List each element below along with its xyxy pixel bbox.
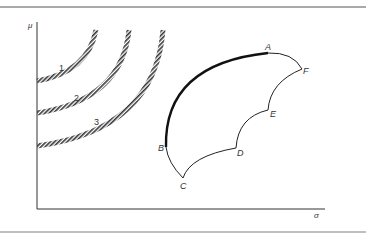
curve-label-1: 1 (59, 63, 64, 73)
point-label-A: A (264, 42, 271, 52)
boundary-AF (268, 53, 302, 69)
curve-label-3: 3 (94, 117, 99, 127)
boundary-ED (236, 110, 268, 148)
point-label-C: C (180, 181, 187, 191)
curve-label-2: 2 (74, 93, 79, 103)
point-label-D: D (237, 148, 244, 158)
y-axis-label: μ (27, 21, 33, 30)
indifference-curve-2 (37, 30, 129, 113)
boundary-CB (166, 147, 183, 178)
boundary-DC (183, 148, 236, 178)
diagram-figure: μ σ 1 2 3 A B C D E F (0, 0, 366, 234)
indifference-curve-1 (37, 30, 96, 81)
point-label-B: B (158, 143, 164, 153)
x-axis-label: σ (314, 211, 320, 220)
efficient-frontier-BA (166, 53, 268, 147)
boundary-FE (268, 69, 302, 110)
point-label-F: F (303, 66, 309, 76)
point-label-E: E (270, 109, 277, 119)
